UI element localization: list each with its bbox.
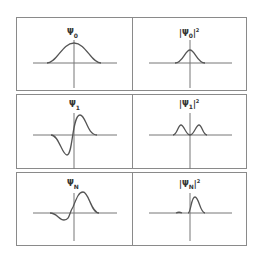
panel-psi0: Ψ0 [16,17,133,91]
panel-psi1: Ψ1 [16,94,133,169]
wavefunction-table: Ψ0 |Ψ0|2 Ψ1 |Ψ1|2 ΨN [16,17,247,246]
plot-psi0 [17,18,134,92]
panel-psiN: ΨN [16,172,133,246]
panel-psiN-squared: |ΨN|2 [132,172,247,246]
plot-psi1-squared [133,95,248,170]
plot-psi0-squared [133,18,248,92]
panel-psi0-squared: |Ψ0|2 [132,17,247,91]
plot-psiN-squared [133,173,248,247]
plot-psiN [17,173,134,247]
plot-psi1 [17,95,134,170]
panel-psi1-squared: |Ψ1|2 [132,94,247,169]
